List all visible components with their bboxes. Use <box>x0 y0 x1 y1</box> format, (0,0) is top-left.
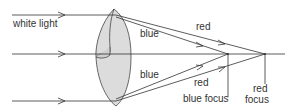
label-red-focus-line1: red <box>253 84 267 94</box>
label-red-focus-line2: focus <box>245 95 269 105</box>
label-white-light: white light <box>13 19 57 29</box>
refracted-rays <box>116 15 265 101</box>
label-blue-focus: blue focus <box>183 94 229 104</box>
arrow-lower-blue <box>196 65 203 70</box>
label-red-upper: red <box>196 22 210 32</box>
blue-focus-point <box>227 53 229 55</box>
convex-lens <box>96 9 131 106</box>
red-focus-point <box>264 53 266 55</box>
label-red-lower: red <box>194 78 208 88</box>
label-blue-upper: blue <box>140 29 159 39</box>
label-blue-lower: blue <box>140 70 159 80</box>
